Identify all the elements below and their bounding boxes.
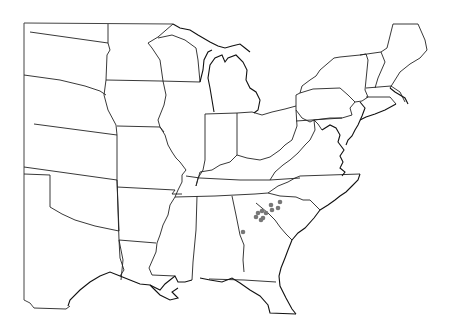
coast-sc [292,210,320,240]
border-ia-mo [117,126,164,132]
border-mo-ar [117,187,182,194]
location-marker [241,230,246,235]
map-frame-north [24,23,173,24]
border-ms-al [192,196,197,280]
coast-nj-de [346,102,365,145]
border-ne-ks [34,124,117,135]
location-marker [276,206,281,211]
coast-ga-fl-atlantic [279,240,296,314]
border-mn-ia [106,80,160,81]
location-marker [270,208,275,213]
border-ky-tn [186,176,300,180]
location-marker [264,211,269,216]
coast-fl-gulf [200,278,296,314]
location-marker [254,215,259,220]
border-tn-south [175,193,268,197]
border-nd-sd [30,32,108,43]
map-frame-west [24,23,34,308]
border-tx-south-coast [34,306,70,309]
border-mississippi-river [148,43,186,276]
border-ny [300,54,368,102]
location-marker [269,203,274,208]
border-in-mi [205,112,252,114]
location-marker [260,209,265,214]
map-container [0,0,451,335]
location-marker [256,211,261,216]
border-il-in [196,114,205,186]
michigan-upper-peninsula [173,24,250,52]
marker-group [241,200,283,235]
border-sd-ne [24,75,106,95]
border-ar-la [119,240,156,243]
border-ohio-river [196,110,297,186]
coast-gulf-central [68,272,192,306]
michigan-lower-peninsula [208,55,260,113]
coast-chesapeake [322,125,345,176]
location-marker [278,200,283,205]
border-pa [296,88,355,121]
location-marker [261,216,266,221]
border-va-ky-wv [270,120,315,180]
border-ok-tx-panhandle [24,174,119,231]
border-wi-il [160,81,200,82]
border-mn-west [104,24,110,95]
border-me [381,24,427,88]
coast-nc [320,174,360,210]
us-eastern-map [0,0,451,335]
border-vt-nh [360,52,385,88]
border-ks-ok [24,167,117,180]
border-ia-west [104,95,117,135]
border-va-nc [300,174,360,176]
